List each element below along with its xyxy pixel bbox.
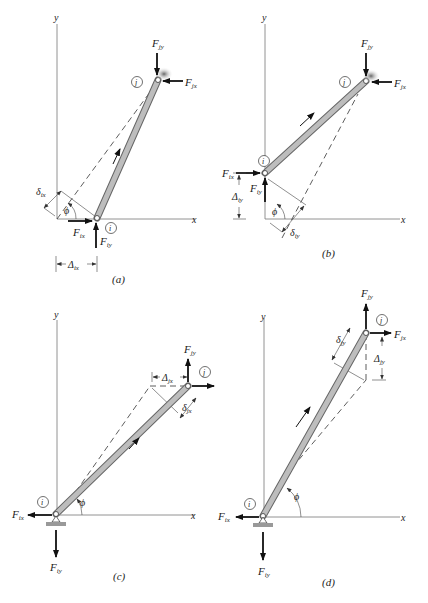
deformed-member-line bbox=[282, 94, 358, 238]
panel-d: y x ϕ Fix Fiy i Fjy Fjx j Δjy δjy (d) bbox=[217, 287, 407, 589]
angle-arc bbox=[277, 204, 285, 219]
force-fjy-label: Fjy bbox=[183, 343, 197, 357]
node-j-pin bbox=[186, 384, 191, 389]
delta-ix-dimension bbox=[44, 191, 61, 208]
force-fix-label: Fix bbox=[221, 167, 235, 181]
angle-phi: ϕ bbox=[80, 497, 85, 508]
x-axis-label: x bbox=[400, 512, 406, 523]
panel-caption-a: (a) bbox=[112, 273, 125, 286]
panel-c: y x ϕ Fix Fiy i Fjy j Δjx δjx (c) bbox=[11, 309, 214, 583]
angle-phi: ϕ bbox=[294, 491, 299, 502]
y-axis-label: y bbox=[53, 12, 59, 23]
delta-iy-label: δiy bbox=[290, 227, 301, 240]
ground-hatch bbox=[46, 522, 66, 526]
force-fiy-label: Fiy bbox=[49, 561, 63, 575]
force-fjy-label: Fjy bbox=[360, 287, 374, 301]
force-fix-label: Fix bbox=[217, 510, 231, 524]
node-i-label: i bbox=[109, 224, 111, 233]
x-axis-label: x bbox=[400, 214, 406, 225]
node-i-label: i bbox=[262, 157, 264, 166]
force-fjy-label: Fjy bbox=[360, 37, 374, 51]
panel-caption-c: (c) bbox=[113, 570, 126, 583]
angle-phi: ϕ bbox=[272, 206, 277, 217]
force-fjx-label: Fjx bbox=[184, 76, 198, 90]
Delta-ix-label: Δix bbox=[67, 259, 80, 272]
force-fix-label: Fix bbox=[72, 226, 86, 240]
panel-b: y x ϕ Fix Fiy i Fjy Fjx j Δiy δiy (b) bbox=[221, 12, 407, 260]
force-fjy-label: Fjy bbox=[151, 37, 165, 51]
node-i-label: i bbox=[41, 498, 43, 507]
node-i-label: i bbox=[248, 500, 250, 509]
truss-member-diagram: y x ϕ Fix Fiy i Fjy Fjx j bbox=[0, 0, 428, 603]
force-fix-label: Fix bbox=[11, 508, 25, 522]
node-j-pin bbox=[364, 331, 369, 336]
ground-hatch bbox=[253, 523, 273, 527]
force-fiy-label: Fiy bbox=[257, 565, 271, 579]
Delta-jy-label: Δjy bbox=[373, 353, 386, 366]
node-i-pin bbox=[95, 216, 100, 221]
delta-jy-label: δjy bbox=[336, 334, 347, 347]
y-axis-label: y bbox=[260, 311, 266, 322]
force-fjx-label: Fjx bbox=[393, 77, 407, 91]
Delta-jx-label: Δjx bbox=[161, 372, 174, 385]
y-axis-label: y bbox=[53, 309, 59, 320]
Delta-iy-label: Δiy bbox=[231, 191, 244, 204]
panel-caption-d: (d) bbox=[322, 576, 335, 589]
pin-support-icon bbox=[52, 516, 60, 522]
delta-ix-label: δix bbox=[36, 186, 47, 199]
panel-caption-b: (b) bbox=[322, 247, 335, 260]
node-i-pin bbox=[263, 171, 268, 176]
force-fiy-label: Fiy bbox=[99, 235, 113, 249]
deformed-member-line bbox=[70, 386, 150, 500]
force-fjx-label: Fjx bbox=[393, 328, 407, 342]
panel-a: y x ϕ Fix Fiy i Fjy Fjx j bbox=[36, 12, 198, 286]
direction-arrow-icon bbox=[300, 113, 314, 126]
y-axis-label: y bbox=[261, 12, 267, 23]
x-axis-label: x bbox=[191, 214, 197, 225]
support-shading bbox=[362, 69, 380, 83]
x-axis-label: x bbox=[190, 510, 196, 521]
direction-arrow-icon bbox=[296, 407, 310, 427]
angle-phi: ϕ bbox=[64, 205, 69, 216]
force-fiy-label: Fiy bbox=[249, 182, 263, 196]
angle-arc bbox=[68, 203, 76, 219]
